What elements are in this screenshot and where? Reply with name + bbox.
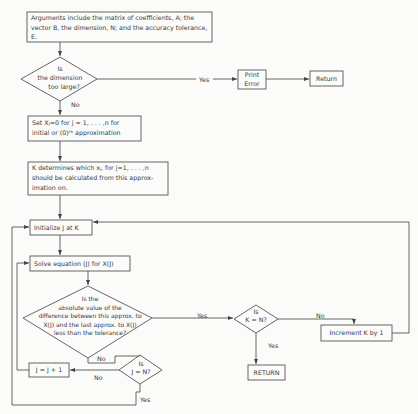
set-x-line1: Set Xⱼ=0 for j = 1, . . . ,n for — [32, 118, 140, 128]
solve-label: Solve equation (J) for X(J) — [34, 259, 114, 268]
set-x-line2: initial or (0)ᵗʰ approximation — [32, 128, 140, 138]
print-error-label: Print Error — [238, 70, 266, 88]
j-eq-n-line1: Is — [121, 360, 161, 368]
dim-check-line1: Is — [35, 64, 85, 73]
k-determines-text: K determines which xⱼ, for j=1, . . . ,n… — [32, 163, 168, 193]
tolerance-line5: less than the tolerance? — [28, 329, 152, 338]
k-eq-n-line1: Is — [236, 308, 276, 316]
edge-dim-yes: Yes — [199, 75, 209, 84]
set-x-text: Set Xⱼ=0 for j = 1, . . . ,n for initial… — [32, 118, 140, 137]
j-plus-1-label: J = J + 1 — [29, 365, 69, 374]
tolerance-line4: X(J) and the last approx. to X(J) — [28, 321, 152, 330]
edge-jn-yes: Yes — [140, 395, 150, 404]
edge-jn-no: No — [94, 373, 103, 382]
dim-check-line2: the dimension — [35, 73, 85, 82]
return-bottom-label: RETURN — [248, 368, 285, 377]
dim-check-line3: too large? — [35, 82, 85, 91]
j-eq-n-label: Is J = N? — [121, 360, 161, 375]
print-error-line2: Error — [238, 79, 266, 88]
k-eq-n-label: Is K = N? — [236, 308, 276, 323]
edge-dim-no: No — [71, 100, 80, 109]
tolerance-check-label: Is the absolute value of the difference … — [28, 295, 152, 338]
k-eq-n-line2: K = N? — [236, 316, 276, 324]
edge-kn-yes: Yes — [268, 341, 278, 350]
flowchart-lines — [0, 0, 418, 414]
tolerance-line1: Is the — [28, 295, 152, 304]
print-error-line1: Print — [238, 70, 266, 79]
tolerance-line3: difference between this approx. to — [28, 312, 152, 321]
return-top-label: Return — [310, 74, 343, 83]
j-eq-n-line2: J = N? — [121, 368, 161, 376]
init-j-label: Initialize J at K — [34, 223, 79, 232]
dim-check-label: Is the dimension too large? — [35, 64, 85, 91]
k-determines-line2: should be calculated from this approx- — [32, 173, 168, 183]
edge-tol-no: No — [97, 354, 106, 363]
edge-tol-yes: Yes — [197, 311, 207, 320]
arguments-text: Arguments include the matrix of coeffici… — [31, 13, 211, 42]
k-determines-line1: K determines which xⱼ, for j=1, . . . ,n — [32, 163, 168, 173]
k-determines-line3: imation on. — [32, 183, 168, 193]
increment-k-label: Increment K by 1 — [321, 328, 392, 337]
edge-kn-no: No — [316, 311, 325, 320]
tolerance-line2: absolute value of the — [28, 304, 152, 313]
